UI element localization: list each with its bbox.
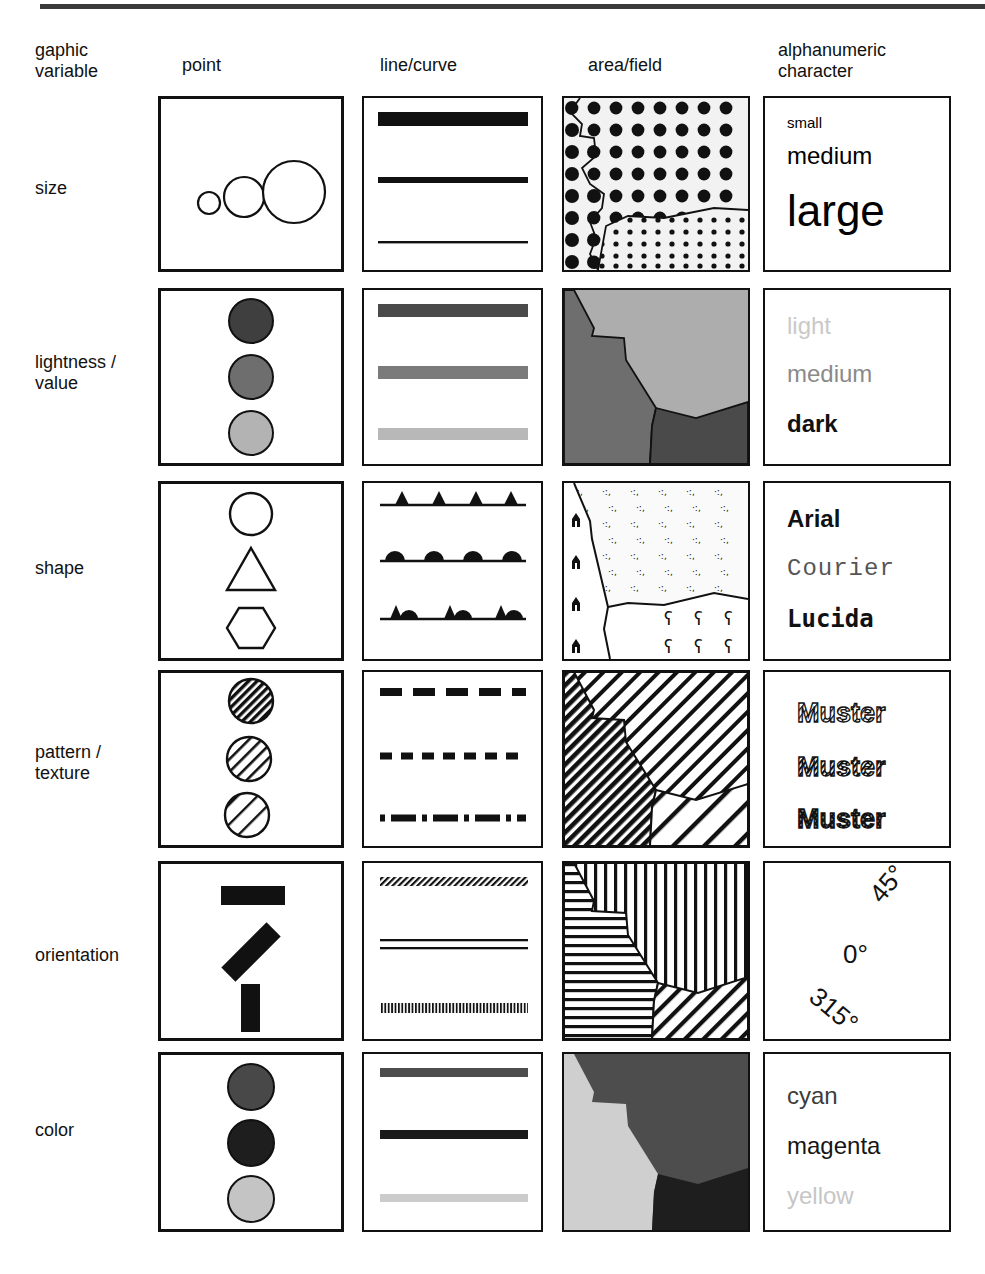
svg-text:·:,: ·:,	[692, 535, 701, 545]
alpha-size-medium: medium	[787, 142, 872, 170]
cell-size-line	[362, 96, 543, 272]
orientation-area-graphic	[564, 863, 748, 1039]
svg-text:ʕ: ʕ	[724, 609, 733, 629]
lightness-point-graphic	[161, 291, 341, 463]
cell-lightness-alpha: light medium dark	[763, 288, 951, 466]
svg-text:·:,: ·:,	[692, 567, 701, 577]
cell-color-point	[158, 1052, 344, 1232]
cell-orientation-alpha: 45° 0° 315°	[763, 861, 951, 1041]
alpha-color-cyan: cyan	[787, 1082, 838, 1110]
svg-text:ʕ: ʕ	[664, 609, 673, 629]
svg-text:·:,: ·:,	[664, 535, 673, 545]
svg-text:·:,: ·:,	[658, 519, 667, 529]
shape-area-graphic: ·:,·:,·:,·:,·:,·:, ·:,·:,·:,·:,·:,·:, ·:…	[564, 483, 748, 659]
size-area-graphic	[564, 98, 748, 270]
alpha-size-large: large	[787, 186, 885, 236]
row-label-pattern-texture: pattern / texture	[35, 742, 165, 784]
svg-text:·:,: ·:,	[692, 503, 701, 513]
header-line-curve: line/curve	[380, 55, 457, 76]
svg-text:·:,: ·:,	[636, 503, 645, 513]
svg-text:·:,: ·:,	[602, 551, 611, 561]
shape-point-graphic	[161, 484, 341, 658]
header-graphic-variable-line2: variable	[35, 61, 155, 82]
cell-size-alpha: small medium large	[763, 96, 951, 272]
size-line-graphic	[364, 98, 541, 270]
cell-orientation-point	[158, 861, 344, 1041]
orientation-line-graphic	[364, 863, 541, 1039]
svg-text:·:,: ·:,	[602, 519, 611, 529]
alpha-lightness-light: light	[787, 312, 831, 340]
cell-lightness-point	[158, 288, 344, 466]
alpha-size-small: small	[787, 114, 822, 131]
row-label-lightness-value: lightness / value	[35, 352, 165, 394]
svg-text:·:,: ·:,	[658, 487, 667, 497]
cell-size-area	[562, 96, 750, 272]
svg-text:·:,: ·:,	[630, 583, 639, 593]
pattern-point-graphic	[161, 673, 341, 845]
cell-size-point	[158, 96, 344, 272]
alpha-orientation-315: 315°	[803, 981, 864, 1039]
svg-text:·:,: ·:,	[686, 519, 695, 529]
alpha-orientation-0: 0°	[843, 939, 868, 970]
alpha-color-yellow: yellow	[787, 1182, 854, 1210]
header-alphanumeric-line2: character	[778, 61, 953, 82]
svg-text:·:,: ·:,	[658, 583, 667, 593]
alpha-shape-lucida: Lucida	[787, 605, 874, 633]
row-label-lightness-line1: lightness /	[35, 352, 165, 373]
svg-text:ʕ: ʕ	[694, 609, 703, 629]
svg-text:·:,: ·:,	[664, 567, 673, 577]
alpha-lightness-dark: dark	[787, 410, 838, 438]
svg-text:·:,: ·:,	[630, 519, 639, 529]
svg-text:·:,: ·:,	[636, 567, 645, 577]
cell-lightness-line	[362, 288, 543, 466]
svg-text:·:,: ·:,	[664, 503, 673, 513]
svg-text:·:,: ·:,	[686, 583, 695, 593]
header-area-field: area/field	[588, 55, 662, 76]
cell-shape-line	[362, 481, 543, 661]
color-area-graphic	[564, 1054, 748, 1230]
row-label-shape-line1: shape	[35, 558, 165, 579]
color-line-graphic	[364, 1054, 541, 1230]
cell-pattern-area	[562, 670, 750, 848]
row-label-shape: shape	[35, 558, 165, 579]
alpha-orientation-45: 45°	[863, 861, 912, 909]
pattern-area-graphic	[564, 672, 748, 846]
row-label-size: size	[35, 178, 165, 199]
svg-text:·:,: ·:,	[686, 487, 695, 497]
cell-shape-alpha: Arial Courier Lucida	[763, 481, 951, 661]
svg-text:Muster: Muster	[797, 752, 886, 782]
color-point-graphic	[161, 1055, 341, 1229]
svg-text:Muster: Muster	[797, 698, 886, 728]
cell-pattern-line	[362, 670, 543, 848]
svg-text:·:,: ·:,	[608, 535, 617, 545]
row-label-orientation-line1: orientation	[35, 945, 165, 966]
svg-text:·:,: ·:,	[686, 551, 695, 561]
cell-orientation-line	[362, 861, 543, 1041]
svg-text:·:,: ·:,	[714, 551, 723, 561]
svg-text:·:,: ·:,	[714, 583, 723, 593]
cell-color-area	[562, 1052, 750, 1232]
svg-text:ʕ: ʕ	[724, 637, 733, 657]
lightness-line-graphic	[364, 290, 541, 464]
cell-pattern-alpha: Muster Muster Muster Muster Muster Muste…	[763, 670, 951, 848]
row-label-lightness-line2: value	[35, 373, 165, 394]
cell-shape-point	[158, 481, 344, 661]
row-label-color: color	[35, 1120, 165, 1141]
graphic-variables-table: gaphic variable point line/curve area/fi…	[0, 0, 985, 1274]
pattern-alpha-graphic: Muster Muster Muster	[765, 672, 949, 846]
svg-text:Muster: Muster	[797, 804, 886, 834]
header-graphic-variable-line1: gaphic	[35, 40, 155, 61]
svg-text:·:,: ·:,	[602, 487, 611, 497]
svg-text:ʕ: ʕ	[694, 637, 703, 657]
svg-text:·:,: ·:,	[720, 503, 729, 513]
svg-text:·:,: ·:,	[608, 567, 617, 577]
svg-text:·:,: ·:,	[630, 551, 639, 561]
row-label-orientation: orientation	[35, 945, 165, 966]
row-label-color-line1: color	[35, 1120, 165, 1141]
shape-line-graphic	[364, 483, 541, 659]
svg-text:·:,: ·:,	[720, 535, 729, 545]
header-alphanumeric-character: alphanumeric character	[778, 40, 953, 82]
size-point-graphic	[161, 99, 341, 269]
header-point: point	[182, 55, 221, 76]
svg-text:·:,: ·:,	[636, 535, 645, 545]
